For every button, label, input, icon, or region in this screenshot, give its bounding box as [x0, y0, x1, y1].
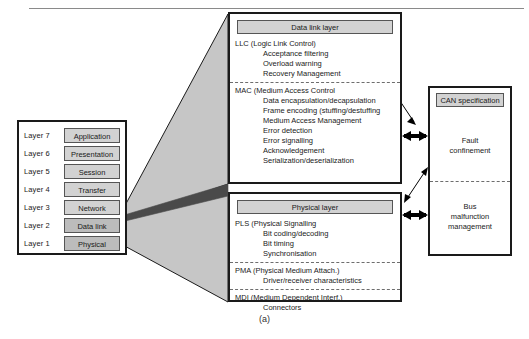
mac-item: Acknowledgement — [235, 146, 396, 156]
figure-caption: (a) — [0, 314, 529, 324]
osi-row-layer-1[interactable]: Layer 1 Physical — [23, 235, 120, 252]
arrow-diagonal-fault — [404, 167, 428, 203]
data-link-layer-title: Data link layer — [237, 20, 393, 34]
arrow-datalink-to-can — [402, 131, 428, 141]
osi-row-layer-4[interactable]: Layer 4 Transfer — [23, 181, 120, 198]
osi-row-layer-7[interactable]: Layer 7 Application — [23, 127, 120, 144]
figure-page: Layer 7 Application Layer 6 Presentation… — [0, 0, 529, 339]
mac-item: Frame encoding (stuffing/destuffing — [235, 106, 396, 116]
llc-item: Recovery Management — [235, 69, 396, 79]
osi-row-layer-6[interactable]: Layer 6 Presentation — [23, 145, 120, 162]
arrow-physical-to-can — [402, 210, 428, 220]
osi-layer-name-data-link[interactable]: Data link — [64, 218, 120, 233]
pma-item: Driver/receiver characteristics — [235, 276, 396, 286]
mac-item: Error detection — [235, 126, 396, 136]
pls-item: Bit timing — [235, 239, 396, 249]
can-section-bus-malfunction-management: Busmalfunctionmanagement — [430, 181, 510, 251]
osi-layer-name-session[interactable]: Session — [64, 164, 120, 179]
osi-layer-number: Layer 4 — [23, 185, 64, 194]
pls-section: PLS (Physical Signalling Bit coding/deco… — [230, 219, 400, 259]
can-specification-panel: CAN specification Faultconfinement Busma… — [428, 86, 512, 256]
pls-item: Bit coding/decoding — [235, 229, 396, 239]
physical-layer-title: Physical layer — [237, 200, 393, 214]
mdi-section: MDI (Medium Dependent Interf.) Connector… — [230, 289, 400, 313]
can-specification-title: CAN specification — [436, 93, 504, 107]
osi-row-layer-2[interactable]: Layer 2 Data link — [23, 217, 120, 234]
osi-layer-name-presentation[interactable]: Presentation — [64, 146, 120, 161]
physical-layer-panel: Physical layer PLS (Physical Signalling … — [228, 192, 402, 302]
osi-layer-number: Layer 1 — [23, 239, 64, 248]
can-section-fault-confinement: Faultconfinement — [430, 111, 510, 181]
mdi-item: Connectors — [235, 303, 396, 313]
mac-item: Data encapsulation/decapsulation — [235, 96, 396, 106]
osi-layer-number: Layer 2 — [23, 221, 64, 230]
mdi-heading: MDI (Medium Dependent Interf.) — [235, 293, 396, 303]
pls-heading: PLS (Physical Signalling — [235, 219, 396, 229]
osi-layer-name-application[interactable]: Application — [64, 128, 120, 143]
mac-item: Error signalling — [235, 136, 396, 146]
llc-item: Acceptance filtering — [235, 49, 396, 59]
osi-row-layer-5[interactable]: Layer 5 Session — [23, 163, 120, 180]
mac-item: Serialization/deserialization — [235, 156, 396, 166]
osi-layer-number: Layer 3 — [23, 203, 64, 212]
osi-row-layer-3[interactable]: Layer 3 Network — [23, 199, 120, 216]
osi-layer-name-transfer[interactable]: Transfer — [64, 182, 120, 197]
pma-section: PMA (Physical Medium Attach.) Driver/rec… — [230, 262, 400, 286]
mac-section: MAC (Medium Access Control Data encapsul… — [230, 82, 400, 166]
data-link-layer-panel: Data link layer LLC (Logic Link Control)… — [228, 12, 402, 184]
llc-section: LLC (Logic Link Control) Acceptance filt… — [230, 39, 400, 79]
osi-layer-number: Layer 6 — [23, 149, 64, 158]
osi-layer-number: Layer 7 — [23, 131, 64, 140]
mac-heading: MAC (Medium Access Control — [235, 86, 396, 96]
llc-heading: LLC (Logic Link Control) — [235, 39, 396, 49]
osi-layer-number: Layer 5 — [23, 167, 64, 176]
osi-layer-name-physical[interactable]: Physical — [64, 236, 120, 251]
osi-layer-name-network[interactable]: Network — [64, 200, 120, 215]
llc-item: Overload warning — [235, 59, 396, 69]
mac-item: Medium Access Management — [235, 116, 396, 126]
osi-layer-stack: Layer 7 Application Layer 6 Presentation… — [17, 120, 127, 255]
pma-heading: PMA (Physical Medium Attach.) — [235, 266, 396, 276]
pls-item: Synchronisation — [235, 249, 396, 259]
